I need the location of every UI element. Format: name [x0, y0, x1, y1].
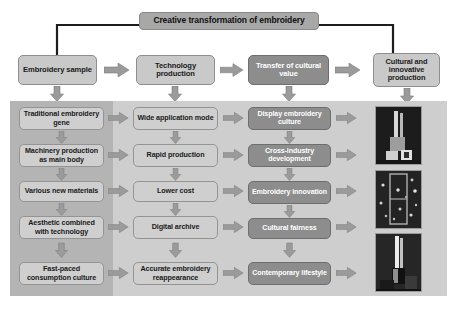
arrow-right-icon-r4-c1c2	[108, 221, 129, 233]
arrow-down-icon-c1-3	[55, 203, 68, 216]
arrow-right-icon-top-1	[104, 63, 130, 77]
arrow-right-icon-r4-to-photo	[336, 221, 357, 233]
photo-1-content	[376, 107, 421, 164]
arrow-right-icon-r2-c2c3	[223, 149, 244, 161]
matrix-cell-c1-r2[interactable]: Machinery production as main body	[19, 144, 104, 167]
photo-2-content	[376, 171, 421, 228]
top-box-embroidery-sample[interactable]: Embroidery sample	[18, 55, 97, 85]
matrix-cell-c1-r4[interactable]: Aesthetic combined with technology	[19, 216, 104, 239]
arrow-right-icon-r5-c1c2	[108, 267, 129, 279]
arrow-down-icon-col-3	[282, 86, 296, 102]
arrow-down-icon-col-2	[168, 86, 182, 102]
arrow-right-icon-r2-to-photo	[336, 149, 357, 161]
arrow-right-icon-r1-to-photo	[336, 112, 357, 124]
arrow-down-icon-col-1	[50, 86, 64, 102]
arrow-right-icon-r1-c2c3	[223, 112, 244, 124]
arrow-right-icon-r2-c1c2	[108, 149, 129, 161]
photo-1[interactable]	[375, 106, 422, 165]
arrow-down-icon-c2-3	[169, 203, 182, 216]
arrow-down-icon-c2-1	[169, 131, 182, 144]
matrix-cell-c3-r2[interactable]: Cross-industry development	[248, 144, 331, 167]
arrow-right-icon-top-3	[335, 63, 361, 77]
matrix-cell-c3-r4[interactable]: Cultural fairness	[248, 218, 331, 239]
photo-2[interactable]	[375, 170, 422, 229]
matrix-cell-c2-r3[interactable]: Lower cost	[133, 181, 218, 202]
matrix-cell-c3-r3[interactable]: Embroidery innovation	[248, 181, 331, 204]
top-box-technology-production[interactable]: Technology production	[136, 55, 215, 85]
top-box-transfer-of-cultural-value[interactable]: Transfer of cultural value	[248, 55, 329, 85]
arrow-down-icon-c2-4	[169, 241, 182, 260]
arrow-right-icon-r3-to-photo	[336, 185, 357, 197]
matrix-cell-c1-r1[interactable]: Traditional embroidery gene	[19, 107, 104, 130]
top-box-cultural-and-innovative-production[interactable]: Cultural and innovative production	[373, 53, 440, 87]
arrow-right-icon-r3-c1c2	[108, 185, 129, 197]
matrix-cell-c2-r5[interactable]: Accurate embroidery reappearance	[133, 262, 218, 285]
diagram-title: Creative transformation of embroidery	[139, 12, 319, 30]
matrix-cell-c2-r4[interactable]: Digital archive	[133, 216, 218, 239]
matrix-cell-c2-r2[interactable]: Rapid production	[133, 144, 218, 167]
matrix-cell-c3-r5[interactable]: Contemporary lifestyle	[248, 262, 331, 285]
arrow-right-icon-r1-c1c2	[108, 112, 129, 124]
arrow-down-icon-c1-2	[55, 168, 68, 181]
arrow-right-icon-r3-c2c3	[223, 185, 244, 197]
arrow-right-icon-top-2	[220, 63, 244, 77]
arrow-down-icon-c1-1	[55, 131, 68, 144]
arrow-down-icon-c1-4	[55, 241, 68, 260]
arrow-down-icon-c3-1	[283, 131, 296, 144]
matrix-cell-c3-r1[interactable]: Display embroidery culture	[248, 107, 331, 130]
arrow-down-icon-c2-2	[169, 168, 182, 181]
photo-3-content	[376, 234, 421, 291]
flow-diagram: Creative transformation of embroidery Em…	[0, 0, 458, 312]
arrow-down-icon-c3-4	[283, 241, 296, 260]
arrow-down-icon-c3-3	[283, 205, 296, 218]
arrow-down-icon-c3-2	[283, 168, 296, 181]
arrow-right-icon-r4-c2c3	[223, 221, 244, 233]
arrow-right-icon-r5-to-photo	[336, 267, 357, 279]
matrix-cell-c2-r1[interactable]: Wide application mode	[133, 107, 218, 130]
matrix-cell-c1-r3[interactable]: Various new materials	[19, 181, 104, 202]
photo-3[interactable]	[375, 233, 422, 292]
matrix-cell-c1-r5[interactable]: Fast-paced consumption culture	[19, 262, 104, 285]
arrow-right-icon-r5-c2c3	[223, 267, 244, 279]
